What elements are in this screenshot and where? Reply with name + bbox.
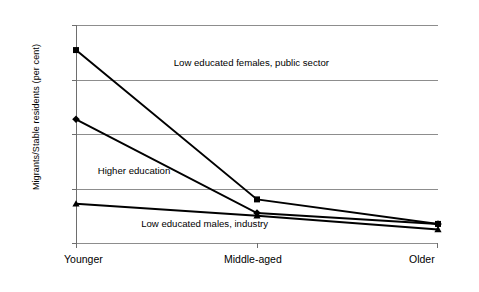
x-tick-mark-younger (76, 243, 77, 248)
x-tick-label-younger: Younger (64, 253, 103, 265)
data-point-0-0 (73, 47, 79, 53)
x-tick-label-middle-aged: Middle-aged (224, 253, 282, 265)
data-point-1-0 (72, 115, 80, 123)
annotation-low-educated-females: Low educated females, public sector (174, 57, 329, 68)
annotation-low-educated-males: Low educated males, industry (141, 218, 268, 229)
series-group (72, 47, 442, 232)
annotation-higher-education: Higher education (98, 165, 171, 176)
data-point-0-1 (254, 196, 260, 202)
x-tick-mark-older (437, 243, 438, 248)
plot-area: Younger Middle-aged Older Low educated f… (76, 25, 438, 243)
x-tick-mark-middle-aged (257, 243, 258, 248)
line-chart: Migrants/Stable residents (per cent) 40 … (0, 0, 479, 292)
x-tick-label-older: Older (409, 253, 435, 265)
y-axis-title: Migrants/Stable residents (per cent) (31, 27, 41, 207)
